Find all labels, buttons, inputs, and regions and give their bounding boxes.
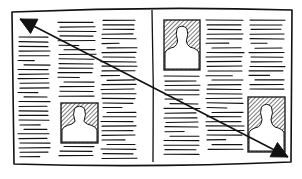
- photo-right-bottom: [248, 97, 285, 152]
- photo-right-top: [164, 20, 200, 70]
- text-line: [166, 122, 198, 123]
- photo-left-bottom: [61, 103, 98, 143]
- sketch-canvas: [0, 0, 302, 179]
- column-divider: [152, 10, 153, 162]
- diagonal-arrow-icon: [20, 19, 288, 157]
- text-columns: [18, 20, 285, 158]
- text-line: [207, 103, 243, 104]
- newspaper-sketch: [0, 0, 302, 179]
